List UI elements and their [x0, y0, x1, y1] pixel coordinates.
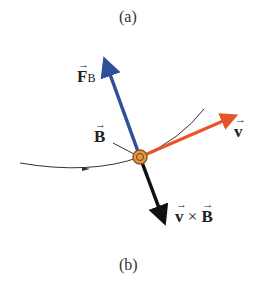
particle-icon	[133, 150, 147, 164]
velocity-arrow	[140, 118, 230, 157]
force-label: FB	[77, 68, 95, 85]
caption-b: (b)	[119, 257, 138, 273]
velocity-label: v	[234, 123, 243, 140]
field-label: B	[94, 128, 105, 145]
force-arrow	[107, 66, 140, 157]
diagram-canvas	[0, 0, 264, 281]
cross-product-arrow	[140, 157, 162, 216]
particle-path	[20, 109, 204, 168]
field-leader-line	[113, 143, 134, 154]
cross-product-label: v × B	[175, 208, 213, 225]
